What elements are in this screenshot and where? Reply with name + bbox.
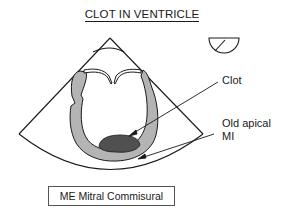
mitral-valve-leaflets xyxy=(84,69,141,84)
orientation-icon xyxy=(209,38,239,53)
echo-sector-diagram xyxy=(0,0,284,216)
view-name-box: ME Mitral Commisural xyxy=(48,186,175,206)
old-apical-mi-label-line1: Old apical xyxy=(222,117,271,130)
view-name-label: ME Mitral Commisural xyxy=(60,190,163,202)
clot-label: Clot xyxy=(222,74,242,87)
old-apical-mi-label-line2: MI xyxy=(222,130,234,143)
apical-clot xyxy=(99,135,140,152)
